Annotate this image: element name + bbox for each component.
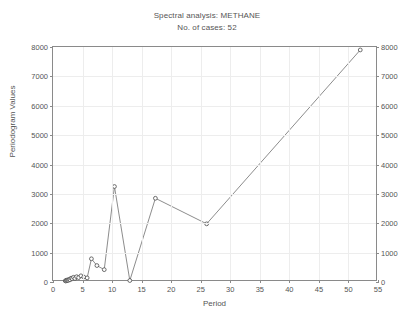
chart-title-block: Spectral analysis: METHANE No. of cases:… (0, 10, 414, 34)
y-tick-label-right: 4000 (376, 160, 414, 169)
data-point-marker (113, 185, 117, 189)
grid-line-vertical (83, 47, 84, 280)
spectral-analysis-chart: Spectral analysis: METHANE No. of cases:… (0, 0, 414, 321)
y-tick-label-left: 3000 (20, 189, 53, 198)
x-tick-mark (171, 280, 172, 283)
x-axis-label: Period (52, 299, 377, 308)
y-tick-label-right: 3000 (376, 189, 414, 198)
y-tick-label-right: 6000 (376, 101, 414, 110)
grid-line-vertical (348, 47, 349, 280)
chart-title: Spectral analysis: METHANE (0, 10, 414, 22)
x-tick-label: 45 (307, 285, 331, 294)
y-axis-label: Periodogram Values (8, 52, 17, 192)
x-tick-mark (260, 280, 261, 283)
y-tick-label-left: 4000 (20, 160, 53, 169)
chart-subtitle: No. of cases: 52 (0, 22, 414, 34)
y-tick-label-left: 5000 (20, 131, 53, 140)
x-tick-mark (112, 280, 113, 283)
grid-line-vertical (289, 47, 290, 280)
x-tick-label: 35 (248, 285, 272, 294)
x-tick-mark (319, 280, 320, 283)
y-tick-label-left: 2000 (20, 219, 53, 228)
y-tick-label-left: 7000 (20, 72, 53, 81)
grid-line-vertical (171, 47, 172, 280)
grid-line-horizontal (53, 106, 376, 107)
grid-line-horizontal (53, 223, 376, 224)
data-point-marker (128, 279, 132, 283)
grid-line-horizontal (53, 76, 376, 77)
y-tick-label-right: 5000 (376, 131, 414, 140)
x-tick-mark (348, 280, 349, 283)
grid-line-horizontal (53, 135, 376, 136)
grid-line-vertical (142, 47, 143, 280)
grid-line-vertical (112, 47, 113, 280)
y-tick-label-left: 1000 (20, 248, 53, 257)
plot-area: 0010001000200020003000300040004000500050… (52, 46, 377, 281)
x-tick-label: 15 (130, 285, 154, 294)
data-point-marker (85, 276, 89, 280)
x-tick-label: 5 (71, 285, 95, 294)
grid-line-horizontal (53, 253, 376, 254)
y-tick-label-right: 1000 (376, 248, 414, 257)
y-tick-label-right: 7000 (376, 72, 414, 81)
data-point-marker (95, 264, 99, 268)
x-tick-label: 0 (41, 285, 65, 294)
grid-line-horizontal (53, 165, 376, 166)
grid-line-vertical (260, 47, 261, 280)
x-tick-mark (53, 280, 54, 283)
x-tick-label: 55 (366, 285, 390, 294)
x-tick-mark (201, 280, 202, 283)
data-point-marker (358, 48, 362, 52)
x-tick-mark (142, 280, 143, 283)
x-tick-label: 40 (277, 285, 301, 294)
x-tick-label: 20 (159, 285, 183, 294)
x-tick-mark (230, 280, 231, 283)
x-tick-label: 10 (100, 285, 124, 294)
grid-line-horizontal (53, 194, 376, 195)
y-tick-label-right: 2000 (376, 219, 414, 228)
data-point-marker (90, 257, 94, 261)
grid-line-vertical (319, 47, 320, 280)
x-tick-mark (378, 280, 379, 283)
x-tick-label: 50 (336, 285, 360, 294)
data-point-marker (102, 268, 106, 272)
grid-line-vertical (201, 47, 202, 280)
x-tick-label: 25 (189, 285, 213, 294)
data-point-marker (154, 196, 158, 200)
y-tick-label-left: 8000 (20, 43, 53, 52)
x-tick-mark (289, 280, 290, 283)
x-tick-mark (83, 280, 84, 283)
y-tick-label-right: 8000 (376, 43, 414, 52)
x-tick-label: 30 (218, 285, 242, 294)
grid-line-vertical (230, 47, 231, 280)
y-tick-label-left: 6000 (20, 101, 53, 110)
